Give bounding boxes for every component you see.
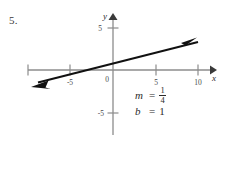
slope-denominator: 4 (160, 96, 166, 105)
x-tick-label-pos5: 5 (154, 78, 158, 87)
slope-variable-label: m (135, 90, 145, 102)
intercept-equals-sign: = (149, 106, 155, 118)
x-tick-label-zero: 0 (105, 75, 109, 84)
intercept-equation-row: b = 1 (135, 104, 166, 120)
slope-equals-sign: = (149, 90, 155, 102)
y-tick-label-pos5: 5 (98, 24, 102, 33)
slope-fraction: 1 4 (159, 86, 166, 105)
coordinate-graph: -5 0 5 10 5 -5 y x (0, 0, 229, 195)
slope-equation-row: m = 1 4 (135, 88, 166, 104)
y-axis-name-label: y (102, 11, 107, 21)
worksheet-problem-panel: 5. -5 0 5 10 5 -5 y x (0, 0, 229, 195)
equation-annotations: m = 1 4 b = 1 (135, 88, 166, 120)
intercept-value-label: 1 (159, 106, 165, 118)
x-tick-label-neg5: -5 (67, 78, 73, 87)
intercept-variable-label: b (135, 106, 145, 118)
slope-numerator: 1 (160, 86, 166, 95)
x-tick-label-pos10: 10 (194, 78, 202, 87)
x-axis-name-label: x (211, 73, 216, 83)
plotted-line-segment (38, 42, 198, 83)
y-axis-arrowhead (109, 13, 118, 20)
y-tick-label-neg5: -5 (98, 109, 104, 118)
